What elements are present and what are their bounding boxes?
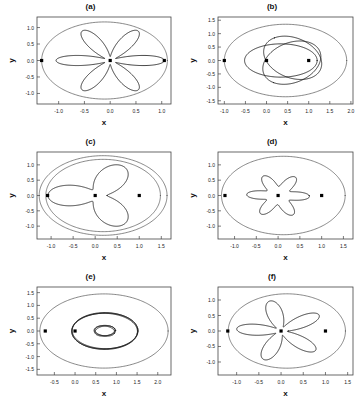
orbit-curves: [221, 156, 345, 234]
orbit-curve: [221, 156, 345, 234]
orbit-panel-b: (b)-1.0-0.50.00.51.01.52.0-1.5-1.0-0.50.…: [181, 0, 363, 135]
x-tick-label: 1.0: [158, 108, 165, 114]
orbit-marker: [223, 59, 226, 62]
x-tick-label: -1.0: [47, 243, 56, 249]
orbit-marker: [109, 59, 112, 62]
x-tick-label: 1.5: [134, 379, 141, 385]
orbit-panel-e: (e)-0.50.00.51.01.52.0-1.5-1.0-0.50.00.5…: [0, 270, 181, 406]
x-tick-label: 0.0: [278, 379, 285, 385]
x-tick-label: -0.5: [50, 379, 59, 385]
x-tick-label: -1.0: [54, 108, 63, 114]
y-tick-label: 0.5: [208, 177, 215, 183]
y-tick-label: -1.0: [206, 223, 215, 229]
orbit-marker: [276, 194, 279, 197]
orbit-curves: [228, 294, 345, 368]
y-axis-label: y: [7, 193, 16, 198]
orbit-marker: [138, 194, 141, 197]
y-tick-label: 1.0: [27, 162, 34, 168]
x-tick-label: 0.0: [263, 108, 270, 114]
orbit-curve: [224, 24, 346, 97]
y-tick-label: -0.5: [206, 71, 215, 77]
orbit-marker: [163, 59, 166, 62]
y-tick-label: -1.5: [206, 98, 215, 104]
y-tick-label: -0.5: [25, 208, 34, 214]
x-tick-label: 0.0: [275, 243, 282, 249]
x-tick-label: 1.5: [326, 108, 333, 114]
orbit-marker: [324, 329, 327, 332]
y-tick-label: 0.5: [208, 44, 215, 50]
orbit-plot: -1.0-0.50.00.51.01.5-1.0-0.50.00.51.0xy: [181, 270, 363, 406]
y-tick-label: -0.5: [25, 341, 34, 347]
plot-frame: [37, 152, 171, 239]
plot-frame: [37, 287, 171, 375]
orbit-marker: [226, 329, 229, 332]
y-tick-label: 0.5: [208, 313, 215, 319]
x-tick-label: 0.5: [132, 108, 139, 114]
x-tick-label: 2.0: [347, 108, 354, 114]
y-axis-label: y: [7, 328, 16, 333]
x-tick-label: 0.0: [92, 243, 99, 249]
plot-frame: [218, 152, 353, 239]
x-axis-label: x: [283, 253, 288, 262]
y-tick-label: 1.0: [208, 162, 215, 168]
x-tick-label: 2.0: [154, 379, 161, 385]
x-tick-label: 0.5: [300, 379, 307, 385]
x-axis-label: x: [283, 389, 288, 398]
x-tick-label: 1.0: [318, 243, 325, 249]
y-axis-label: y: [188, 193, 197, 198]
y-tick-label: -1.0: [25, 354, 34, 360]
orbit-curve: [39, 156, 167, 236]
orbit-curve: [263, 41, 321, 84]
orbit-curve: [42, 22, 168, 99]
orbit-plot: -1.0-0.50.00.51.01.5-1.0-0.50.00.51.0xy: [181, 135, 363, 270]
y-tick-label: 0.0: [208, 328, 215, 334]
orbit-curves: [42, 22, 168, 99]
orbit-plot: -1.0-0.50.00.51.01.5-1.0-0.50.00.51.0xy: [0, 135, 181, 270]
y-tick-label: 0.0: [208, 193, 215, 199]
orbit-figure-grid: (a)-1.0-0.50.00.51.0-1.0-0.50.00.51.0xy(…: [0, 0, 363, 406]
orbit-plot: -0.50.00.51.01.52.0-1.5-1.0-0.50.00.51.0…: [0, 270, 181, 406]
orbit-marker: [73, 329, 76, 332]
x-axis-label: x: [102, 389, 107, 398]
x-tick-label: -0.5: [252, 243, 261, 249]
x-tick-label: 0.5: [114, 243, 121, 249]
x-tick-label: 0.0: [72, 379, 79, 385]
orbit-marker: [94, 194, 97, 197]
y-tick-label: 0.5: [27, 177, 34, 183]
orbit-panel-d: (d)-1.0-0.50.00.51.01.5-1.0-0.50.00.51.0…: [181, 135, 363, 270]
orbit-plot: -1.0-0.50.00.51.01.52.0-1.5-1.0-0.50.00.…: [181, 0, 363, 135]
x-tick-label: 1.0: [322, 379, 329, 385]
orbit-curves: [39, 156, 167, 236]
y-tick-label: -0.5: [206, 208, 215, 214]
orbit-marker: [223, 194, 226, 197]
plot-frame: [218, 17, 353, 104]
y-tick-label: 0.0: [27, 328, 34, 334]
x-tick-label: -1.0: [230, 243, 239, 249]
orbit-curve: [40, 294, 168, 368]
x-tick-label: -1.0: [220, 108, 229, 114]
orbit-panel-c: (c)-1.0-0.50.00.51.01.5-1.0-0.50.00.51.0…: [0, 135, 181, 270]
x-tick-label: 1.5: [340, 243, 347, 249]
y-tick-label: -1.0: [206, 84, 215, 90]
orbit-curve: [228, 294, 345, 368]
x-tick-label: 0.5: [296, 243, 303, 249]
x-tick-label: 1.0: [305, 108, 312, 114]
orbit-curve: [46, 159, 161, 231]
x-axis-label: x: [102, 118, 107, 127]
x-tick-label: 0.5: [92, 379, 99, 385]
orbit-marker: [46, 194, 49, 197]
orbit-plot: -1.0-0.50.00.51.0-1.0-0.50.00.51.0xy: [0, 0, 181, 135]
x-axis-label: x: [283, 118, 288, 127]
x-tick-label: 0.0: [107, 108, 114, 114]
y-axis-label: y: [7, 58, 16, 63]
x-tick-label: 1.5: [344, 379, 351, 385]
orbit-marker: [40, 59, 43, 62]
x-tick-label: -0.5: [69, 243, 78, 249]
orbit-marker: [307, 59, 310, 62]
x-tick-label: 1.5: [158, 243, 165, 249]
x-tick-label: -1.0: [232, 379, 241, 385]
plot-frame: [37, 17, 171, 104]
y-axis-label: y: [188, 328, 197, 333]
y-tick-label: 0.0: [27, 58, 34, 64]
orbit-curve: [245, 44, 318, 77]
